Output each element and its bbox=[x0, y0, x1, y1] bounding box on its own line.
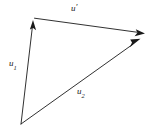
vector-label-u2-subscript: 2 bbox=[82, 92, 85, 99]
vector-label-u1: u1 bbox=[9, 59, 17, 68]
vector-label-u-prime-mark: ′ bbox=[76, 2, 78, 12]
vector-u-prime bbox=[35, 18, 146, 36]
vector-u2-arrowhead bbox=[130, 39, 141, 48]
vector-diagram-figure: u′ u1 u2 bbox=[0, 0, 152, 133]
vector-u1-shaft bbox=[21, 29, 32, 125]
vector-u1-arrowhead bbox=[30, 20, 36, 30]
vector-u-prime-shaft bbox=[35, 18, 138, 32]
vector-label-u1-subscript: 1 bbox=[14, 64, 17, 71]
vector-label-u-prime: u′ bbox=[71, 4, 77, 13]
vector-label-u1-base: u bbox=[9, 58, 14, 68]
vector-u-prime-arrowhead bbox=[135, 29, 145, 36]
vector-label-u-prime-base: u bbox=[71, 3, 76, 13]
vector-label-u2-base: u bbox=[77, 86, 82, 96]
vector-diagram-canvas bbox=[0, 0, 152, 133]
vector-u2-shaft bbox=[21, 45, 133, 125]
vector-u1 bbox=[21, 20, 36, 124]
vector-u2 bbox=[21, 39, 141, 124]
vector-label-u2: u2 bbox=[77, 87, 85, 96]
